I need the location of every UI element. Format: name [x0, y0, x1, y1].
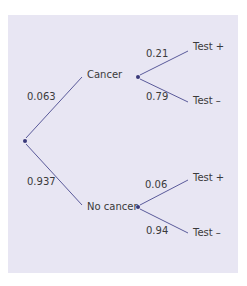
prob-cancer-test-pos: 0.21 — [146, 48, 168, 60]
label-no-cancer: No cancer — [87, 201, 138, 213]
branch-cancer-line — [26, 77, 82, 138]
prob-cancer: 0.063 — [27, 91, 56, 103]
label-nocancer-test-neg: Test – — [193, 227, 221, 239]
prob-nocancer-test-pos: 0.06 — [145, 179, 167, 191]
branch-no-cancer-line — [26, 144, 82, 205]
prob-nocancer-test-neg: 0.94 — [146, 225, 168, 237]
label-cancer-test-neg: Test – — [193, 95, 221, 107]
label-cancer: Cancer — [87, 69, 122, 81]
prob-no-cancer: 0.937 — [27, 176, 56, 188]
label-cancer-test-pos: Test + — [193, 41, 224, 53]
label-nocancer-test-pos: Test + — [193, 172, 224, 184]
root-node — [23, 139, 27, 143]
cancer-node — [136, 75, 140, 79]
prob-cancer-test-neg: 0.79 — [146, 91, 168, 103]
